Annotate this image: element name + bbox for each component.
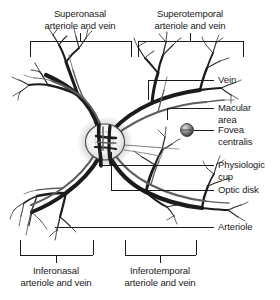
label-fovea-centralis-line1: Fovea	[218, 124, 252, 136]
label-inferotemporal: Inferotemporal arteriole and vein	[100, 265, 220, 288]
leader-macular-area	[167, 108, 214, 120]
bracket-superotemporal	[138, 33, 243, 57]
label-physiologic-cup-line1: Physiologic	[218, 159, 265, 171]
label-macular-area-line1: Macular	[218, 102, 251, 114]
leader-vein	[148, 80, 214, 100]
label-inferonasal-line2: arteriole and vein	[0, 277, 116, 289]
label-vein-line1: Vein	[218, 74, 236, 86]
bracket-inferotemporal	[125, 240, 196, 263]
label-inferotemporal-line1: Inferotemporal	[100, 265, 220, 277]
label-superotemporal-line1: Superotemporal	[130, 8, 250, 20]
label-optic-disk-line1: Optic disk	[218, 184, 259, 196]
label-fovea-centralis: Fovea centralis	[218, 124, 252, 147]
label-superonasal-line2: arteriole and vein	[20, 20, 140, 32]
callout-lines	[0, 0, 280, 300]
retinal-fundus-figure: .v { fill:none; stroke:#1b1b1b; stroke-l…	[0, 0, 280, 300]
label-inferotemporal-line2: arteriole and vein	[100, 277, 220, 289]
label-vein: Vein	[218, 74, 236, 86]
bracket-superonasal	[30, 33, 131, 57]
label-superonasal: Superonasal arteriole and vein	[20, 8, 140, 31]
label-inferonasal: Inferonasal arteriole and vein	[0, 265, 116, 288]
label-inferonasal-line1: Inferonasal	[0, 265, 116, 277]
label-optic-disk: Optic disk	[218, 184, 259, 196]
bracket-inferonasal	[20, 240, 93, 263]
label-fovea-centralis-line2: centralis	[218, 136, 252, 148]
label-superotemporal-line2: arteriole and vein	[130, 20, 250, 32]
label-physiologic-cup: Physiologic cup	[218, 159, 265, 182]
label-superotemporal: Superotemporal arteriole and vein	[130, 8, 250, 31]
leader-optic-disk	[111, 152, 214, 190]
label-macular-area: Macular area	[218, 102, 251, 125]
label-physiologic-cup-line2: cup	[218, 171, 265, 183]
label-superonasal-line1: Superonasal	[20, 8, 140, 20]
label-arteriole: Arteriole	[218, 221, 252, 233]
leader-physiologic-cup	[99, 150, 214, 165]
label-arteriole-line1: Arteriole	[218, 221, 252, 233]
